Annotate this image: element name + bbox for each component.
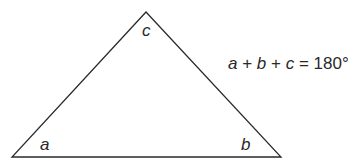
angle-label-c: c (142, 21, 151, 40)
formula-plus-1: + (237, 54, 256, 73)
angle-sum-formula: a + b + c = 180° (228, 54, 349, 73)
formula-plus-2: + (266, 54, 285, 73)
formula-a: a (228, 54, 237, 73)
triangle-diagram: c a b a + b + c = 180° (0, 0, 357, 168)
angle-label-a: a (40, 135, 49, 154)
formula-equals: = (294, 54, 313, 73)
angle-label-b: b (241, 135, 250, 154)
formula-b: b (257, 54, 266, 73)
formula-value: 180° (314, 54, 349, 73)
